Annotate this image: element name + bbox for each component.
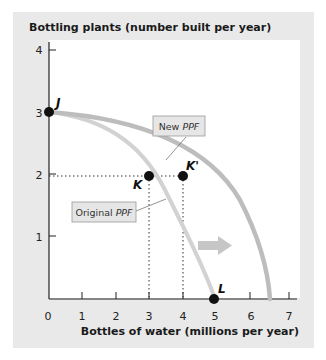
y-tick-4: 4 [36, 44, 43, 57]
original-ppf-leader [136, 199, 166, 211]
x-tick-6: 6 [248, 310, 255, 323]
y-tick-3: 3 [36, 107, 43, 120]
svg-text:New PPF: New PPF [159, 121, 200, 132]
tick-labels: 4 3 2 1 0 1 2 3 4 5 6 7 [36, 44, 293, 323]
x-tick-1: 1 [79, 310, 86, 323]
label-j: J [54, 96, 61, 110]
y-tick-2: 2 [36, 169, 43, 182]
label-l: L [218, 282, 226, 296]
guide-lines [49, 176, 183, 299]
new-ppf-callout: New PPF [153, 116, 205, 136]
label-k: K [133, 178, 144, 192]
point-k [144, 171, 154, 181]
x-tick-0: 0 [45, 310, 52, 323]
svg-text:Original PPF: Original PPF [75, 207, 133, 218]
original-ppf-callout: Original PPF [72, 202, 136, 222]
ppf-chart: 4 3 2 1 0 1 2 3 4 5 6 7 New PPF Original… [0, 0, 326, 360]
x-tick-5: 5 [212, 310, 219, 323]
label-k-prime: K' [186, 159, 199, 173]
point-j [44, 107, 54, 117]
y-tick-1: 1 [36, 231, 43, 244]
x-tick-3: 3 [146, 310, 153, 323]
axis-ticks [49, 50, 289, 299]
x-tick-4: 4 [180, 310, 187, 323]
shift-arrow-icon [198, 236, 232, 255]
x-tick-2: 2 [113, 310, 120, 323]
x-tick-7: 7 [286, 310, 293, 323]
axes [49, 42, 297, 299]
